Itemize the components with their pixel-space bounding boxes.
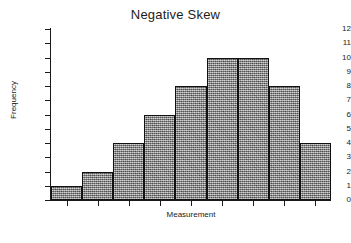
plot-area: [51, 29, 331, 200]
histogram-bar: [82, 172, 113, 201]
x-axis-tick-mark: [315, 201, 316, 206]
histogram-chart: Negative Skew 0123456789101112 Frequency…: [0, 0, 351, 243]
histogram-bar: [144, 115, 175, 201]
histogram-bar: [51, 186, 82, 200]
histogram-bar: [238, 58, 269, 201]
chart-title: Negative Skew: [0, 7, 351, 22]
x-axis-title: Measurement: [51, 210, 331, 219]
x-axis-tick-mark: [191, 201, 192, 206]
histogram-bar: [269, 86, 300, 200]
x-axis-tick-mark: [67, 201, 68, 206]
x-axis-tick-mark: [129, 201, 130, 206]
x-axis-tick-mark: [160, 201, 161, 206]
y-axis-title: Frequency: [10, 60, 18, 140]
x-axis-tick-mark: [98, 201, 99, 206]
x-axis-tick-mark: [284, 201, 285, 206]
x-axis-line: [50, 200, 331, 201]
histogram-bar: [207, 58, 238, 201]
histogram-bar: [175, 86, 206, 200]
histogram-bar: [113, 143, 144, 200]
x-axis-tick-mark: [253, 201, 254, 206]
histogram-bar: [300, 143, 331, 200]
x-axis-tick-mark: [222, 201, 223, 206]
